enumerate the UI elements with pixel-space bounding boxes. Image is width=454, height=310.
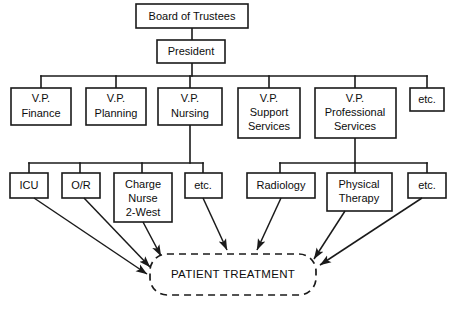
node-label-radiology: Radiology <box>257 179 306 191</box>
node-vp-finance[interactable]: V.P. Finance <box>11 88 71 125</box>
node-label-vp-finance-line2: Finance <box>21 107 60 119</box>
node-vp-support-services[interactable]: V.P. Support Services <box>238 88 300 138</box>
node-radiology[interactable]: Radiology <box>247 173 315 198</box>
arrow-nursing-etc-to-patient-treatment <box>203 198 227 250</box>
node-label-vp-support-line3: Services <box>248 120 291 132</box>
node-label-vp-professional-line3: Services <box>334 120 377 132</box>
node-label-vp-professional-line2: Professional <box>325 106 386 118</box>
node-vp-planning[interactable]: V.P. Planning <box>86 88 146 125</box>
node-board-of-trustees[interactable]: Board of Trustees <box>136 4 248 28</box>
node-nursing-etc[interactable]: etc. <box>185 173 222 198</box>
node-physical-therapy[interactable]: Physical Therapy <box>327 173 392 211</box>
node-vp-nursing[interactable]: V.P. Nursing <box>158 88 222 125</box>
node-label-vp-support-line2: Support <box>250 106 289 118</box>
node-label-or: O/R <box>71 179 91 191</box>
node-label-vp-planning-line2: Planning <box>95 107 138 119</box>
node-label-board: Board of Trustees <box>149 10 236 22</box>
node-label-vp-finance-line1: V.P. <box>32 92 50 104</box>
org-chart-svg: Board of Trustees President V.P. Finance… <box>0 0 454 310</box>
node-charge-nurse-2-west[interactable]: Charge Nurse 2-West <box>114 173 172 222</box>
node-icu[interactable]: ICU <box>10 173 48 198</box>
node-label-physical-line1: Physical <box>339 178 380 190</box>
node-label-patient-treatment: PATIENT TREATMENT <box>171 268 295 280</box>
node-label-vp-etc: etc. <box>418 93 436 105</box>
node-label-charge-line3: 2-West <box>126 206 161 218</box>
node-professional-etc[interactable]: etc. <box>408 173 446 198</box>
node-or[interactable]: O/R <box>62 173 100 198</box>
node-label-charge-line2: Nurse <box>128 192 157 204</box>
node-label-vp-nursing-line1: V.P. <box>181 92 199 104</box>
node-label-vp-support-line1: V.P. <box>260 92 278 104</box>
node-patient-treatment[interactable]: PATIENT TREATMENT <box>150 254 316 295</box>
node-label-physical-line2: Therapy <box>339 192 380 204</box>
node-label-vp-nursing-line2: Nursing <box>171 107 209 119</box>
org-chart-canvas: Board of Trustees President V.P. Finance… <box>0 0 454 310</box>
node-label-professional-etc: etc. <box>418 179 436 191</box>
node-label-vp-professional-line1: V.P. <box>346 92 364 104</box>
node-label-president: President <box>168 45 214 57</box>
node-label-charge-line1: Charge <box>125 178 161 190</box>
node-label-icu: ICU <box>20 179 39 191</box>
arrow-radiology-to-patient-treatment <box>257 198 281 250</box>
node-label-nursing-etc: etc. <box>194 179 212 191</box>
node-vp-etc[interactable]: etc. <box>410 88 444 111</box>
node-president[interactable]: President <box>157 40 225 63</box>
node-label-vp-planning-line1: V.P. <box>107 92 125 104</box>
node-vp-professional-services[interactable]: V.P. Professional Services <box>315 88 396 138</box>
arrow-charge-nurse-to-patient-treatment <box>143 222 161 256</box>
